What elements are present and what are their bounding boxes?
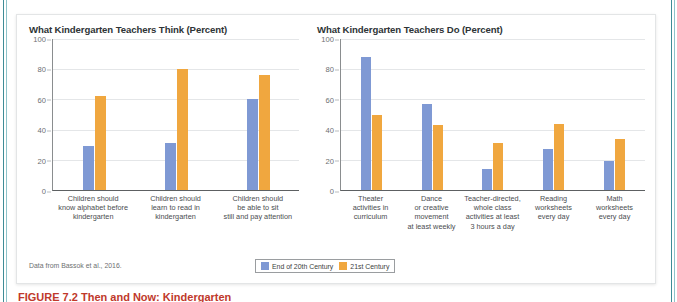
- figure-caption-text: FIGURE 7.2 Then and Now: Kindergarten: [18, 292, 659, 302]
- y-tick-mark: [335, 39, 339, 40]
- x-axis-label: Danceor creativemovementat least weekly: [401, 194, 462, 231]
- chart-panel-do: What Kindergarten Teachers Do (Percent) …: [307, 15, 655, 283]
- y-tick-label: 20: [326, 156, 334, 165]
- y-tick-label: 100: [33, 35, 46, 44]
- bar-group: [584, 39, 645, 190]
- y-tick-mark: [47, 69, 51, 70]
- y-tick-label: 20: [38, 156, 46, 165]
- x-axis-label: Readingworksheetsevery day: [523, 194, 584, 231]
- bar-group: [217, 39, 299, 190]
- bar-group: [402, 39, 463, 190]
- plot-do: 100806040200: [313, 39, 647, 191]
- bar-end-of-20th-century: [543, 149, 553, 190]
- y-tick-mark: [335, 130, 339, 131]
- legend-swatch-icon-21st-century: [339, 262, 347, 270]
- bar-group: [53, 39, 135, 190]
- y-tick-mark: [335, 100, 339, 101]
- page-edge-rule-outer-right: [671, 0, 672, 302]
- y-tick-mark: [47, 161, 51, 162]
- y-tick-mark: [335, 191, 339, 192]
- bar-group: [523, 39, 584, 190]
- bar-21st-century: [554, 124, 564, 190]
- x-axis-label: Mathworksheetsevery day: [584, 194, 645, 231]
- x-axis-label: Children shouldknow alphabet beforekinde…: [52, 194, 134, 222]
- bar-group: [135, 39, 217, 190]
- chart-panels: What Kindergarten Teachers Think (Percen…: [17, 15, 655, 283]
- y-axis-think: 100806040200: [25, 39, 51, 191]
- bar-21st-century: [95, 96, 106, 190]
- y-tick-label: 0: [330, 187, 334, 196]
- bar-end-of-20th-century: [604, 161, 614, 190]
- y-axis-do: 100806040200: [313, 39, 339, 191]
- y-tick-label: 60: [38, 95, 46, 104]
- figure-caption: FIGURE 7.2 Then and Now: Kindergarten: [18, 292, 659, 302]
- page-edge-rule-inner-left: [6, 0, 7, 302]
- bar-end-of-20th-century: [361, 57, 371, 190]
- y-tick-label: 100: [321, 35, 334, 44]
- legend-swatch-icon-end-of-20th-century: [261, 262, 269, 270]
- bar-group: [341, 39, 402, 190]
- chart-panel-think: What Kindergarten Teachers Think (Percen…: [17, 15, 307, 283]
- y-tick-mark: [335, 161, 339, 162]
- legend-label-1: 21st Century: [350, 263, 389, 270]
- y-tick-label: 60: [326, 95, 334, 104]
- bar-groups-think: [53, 39, 299, 190]
- y-tick-mark: [47, 191, 51, 192]
- x-axis-labels-think: Children shouldknow alphabet beforekinde…: [52, 194, 299, 222]
- bar-end-of-20th-century: [482, 169, 492, 190]
- y-tick-mark: [335, 69, 339, 70]
- bar-21st-century: [493, 143, 503, 190]
- y-tick-label: 80: [326, 65, 334, 74]
- page-edge-rule-inner-right: [674, 0, 675, 302]
- bar-21st-century: [615, 139, 625, 190]
- plot-area-do: [340, 39, 645, 191]
- x-axis-label: Teacher-directed,whole classactivities a…: [462, 194, 523, 231]
- bar-end-of-20th-century: [83, 146, 94, 190]
- legend-label-0: End of 20th Century: [272, 263, 333, 270]
- bar-group: [463, 39, 524, 190]
- chart-legend: End of 20th Century 21st Century: [255, 259, 395, 273]
- y-tick-label: 0: [42, 187, 46, 196]
- legend-item-0: End of 20th Century: [261, 262, 333, 270]
- bar-21st-century: [433, 125, 443, 190]
- y-tick-mark: [47, 100, 51, 101]
- bar-end-of-20th-century: [247, 99, 258, 190]
- page-edge-rule-outer-left: [3, 0, 4, 302]
- chart-title-do: What Kindergarten Teachers Do (Percent): [317, 24, 647, 35]
- x-axis-labels-do: Theateractivities incurriculumDanceor cr…: [340, 194, 645, 231]
- x-axis-label: Theateractivities incurriculum: [340, 194, 401, 231]
- legend-item-1: 21st Century: [339, 262, 389, 270]
- bar-21st-century: [177, 69, 188, 190]
- y-tick-mark: [47, 39, 51, 40]
- y-tick-label: 80: [38, 65, 46, 74]
- bar-21st-century: [372, 115, 382, 191]
- plot-think: 100806040200: [25, 39, 301, 191]
- figure-card: What Kindergarten Teachers Think (Percen…: [16, 14, 656, 284]
- bar-21st-century: [259, 75, 270, 190]
- y-tick-mark: [47, 130, 51, 131]
- chart-title-think: What Kindergarten Teachers Think (Percen…: [29, 24, 301, 35]
- x-axis-label: Children shouldbe able to sitstill and p…: [217, 194, 299, 222]
- bar-end-of-20th-century: [422, 104, 432, 190]
- bar-end-of-20th-century: [165, 143, 176, 190]
- y-tick-label: 40: [38, 126, 46, 135]
- y-tick-label: 40: [326, 126, 334, 135]
- plot-area-think: [52, 39, 299, 191]
- source-note: Data from Bassok et al., 2016.: [29, 262, 122, 269]
- x-axis-label: Children shouldlearn to read inkindergar…: [134, 194, 216, 222]
- bar-groups-do: [341, 39, 645, 190]
